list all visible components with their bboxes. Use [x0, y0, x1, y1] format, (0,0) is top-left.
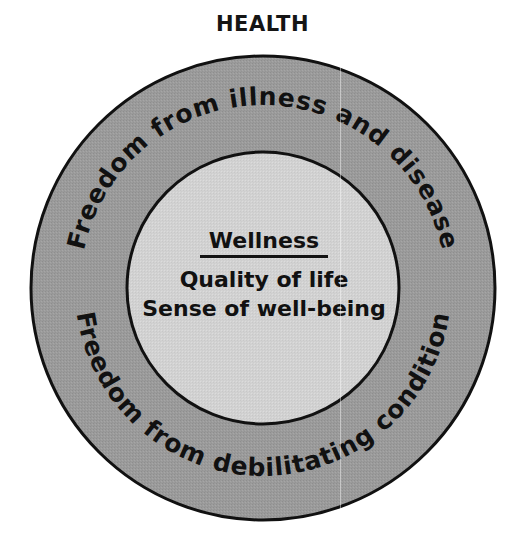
inner-circle-content: Wellness Quality of life Sense of well-b… [132, 228, 396, 323]
inner-circle-line-1: Quality of life [132, 265, 396, 294]
health-diagram: HEALTH Freedom from ill [0, 0, 525, 535]
wellness-heading-wrap: Wellness [132, 228, 396, 258]
wellness-heading: Wellness [200, 228, 328, 258]
inner-circle-line-2: Sense of well-being [132, 294, 396, 323]
